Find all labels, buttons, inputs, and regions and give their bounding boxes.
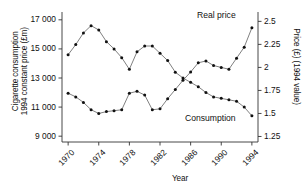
y-axis-left-tick-label: 15 000 xyxy=(0,44,56,53)
axis-lines xyxy=(62,12,258,142)
tick-marks xyxy=(59,20,262,146)
y-axis-right-tick-label: 2 xyxy=(264,63,269,72)
y-axis-right-tick-label: 1.5 xyxy=(264,109,276,118)
data-series xyxy=(67,24,254,117)
chart-figure: Cigarette consumption 1994 constant pric… xyxy=(0,0,308,188)
y-axis-left-tick-label: 11 000 xyxy=(0,103,56,112)
y-axis-left-tick-label: 17 000 xyxy=(0,15,56,24)
y-axis-left-tick-label: 9 000 xyxy=(0,132,56,141)
y-axis-right-tick-label: 1.75 xyxy=(264,86,280,95)
y-axis-right-tick-label: 1.25 xyxy=(264,132,280,141)
y-axis-left-tick-label: 13 000 xyxy=(0,74,56,83)
y-axis-right-tick-label: 2.5 xyxy=(264,17,276,26)
y-axis-right-tick-label: 2.25 xyxy=(264,40,280,49)
